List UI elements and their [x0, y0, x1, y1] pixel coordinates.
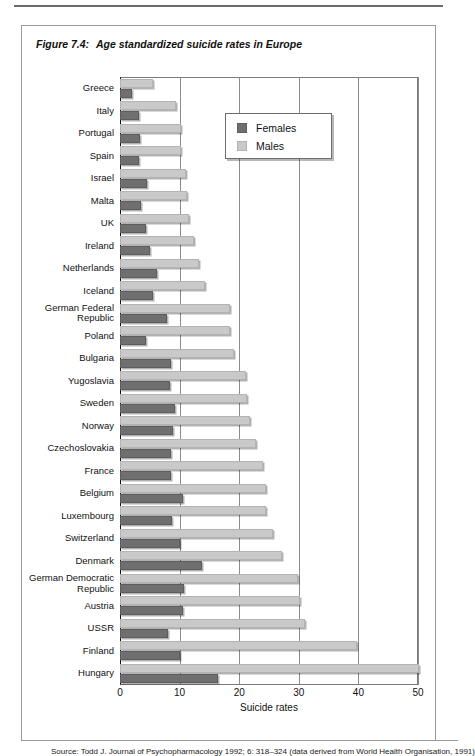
bar-females [120, 224, 146, 233]
bar-group [120, 349, 418, 372]
bar-group [120, 551, 418, 574]
y-axis-label: Iceland [18, 286, 114, 297]
bar-females [120, 561, 202, 570]
y-axis-label: Sweden [18, 398, 114, 409]
x-tick-20: 20 [234, 687, 245, 698]
bar-group [120, 394, 418, 417]
bar-females [120, 516, 172, 525]
bar-males [120, 214, 189, 223]
gridline-50 [418, 77, 419, 685]
bar-females [120, 449, 171, 458]
x-axis-ticks: 01020304050 [120, 687, 418, 701]
bar-group [120, 641, 418, 664]
legend-entry-females: Females [237, 121, 296, 135]
bar-females [120, 336, 146, 345]
bar-females [120, 134, 140, 143]
bar-males [120, 259, 199, 268]
bar-group [120, 574, 418, 597]
y-axis-label: Belgium [18, 488, 114, 499]
y-axis-label: Poland [18, 331, 114, 342]
figure-number: Figure 7.4: [36, 38, 96, 50]
bar-females [120, 584, 184, 593]
bar-group [120, 461, 418, 484]
bar-males [120, 619, 305, 628]
bar-males [120, 641, 357, 650]
bar-females [120, 606, 183, 615]
bar-group [120, 484, 418, 507]
y-axis-label: Ireland [18, 241, 114, 252]
bar-females [120, 156, 139, 165]
plot-area [120, 77, 418, 685]
y-axis-label: Switzerland [18, 533, 114, 544]
bar-males [120, 371, 246, 380]
x-tick-50: 50 [412, 687, 423, 698]
bar-females [120, 471, 171, 480]
bar-males [120, 664, 419, 673]
bar-females [120, 314, 167, 323]
bar-group [120, 169, 418, 192]
bar-rows [120, 77, 418, 685]
y-axis-label: Hungary [18, 668, 114, 679]
source-note: Source: Todd J. Journal of Psychopharmac… [51, 747, 456, 756]
y-axis-label: USSR [18, 623, 114, 634]
bar-females [120, 539, 180, 548]
y-axis-label: Yugoslavia [18, 376, 114, 387]
bar-group [120, 304, 418, 327]
bar-males [120, 551, 282, 560]
bar-males [120, 169, 186, 178]
bar-group [120, 506, 418, 529]
bar-females [120, 291, 153, 300]
source-divider [43, 740, 458, 741]
bar-group [120, 619, 418, 642]
figure-caption: Figure 7.4:Age standardized suicide rate… [36, 38, 426, 50]
bar-group [120, 439, 418, 462]
y-axis-label: Italy [18, 106, 114, 117]
y-axis-label: Finland [18, 646, 114, 657]
legend-label-males: Males [256, 140, 284, 152]
bar-group [120, 281, 418, 304]
y-axis-label: UK [18, 218, 114, 229]
y-axis-label: Denmark [18, 556, 114, 567]
bar-group [120, 79, 418, 102]
bar-males [120, 326, 230, 335]
bar-males [120, 191, 187, 200]
bar-males [120, 146, 181, 155]
legend-entry-males: Males [237, 139, 284, 153]
y-axis-label: Greece [18, 83, 114, 94]
y-axis-label: Norway [18, 421, 114, 432]
bar-males [120, 574, 298, 583]
x-tick-0: 0 [117, 687, 123, 698]
bar-males [120, 484, 266, 493]
bar-males [120, 596, 300, 605]
x-tick-10: 10 [174, 687, 185, 698]
bar-group [120, 236, 418, 259]
bar-males [120, 439, 256, 448]
legend-swatch-females-icon [237, 123, 247, 133]
y-axis-label: German DemocraticRepublic [18, 573, 114, 594]
bar-males [120, 461, 263, 470]
y-axis-label: Czechoslovakia [18, 443, 114, 454]
bar-females [120, 404, 175, 413]
legend-swatch-males-icon [237, 141, 247, 151]
bar-males [120, 79, 153, 88]
y-axis-label: Bulgaria [18, 353, 114, 364]
y-axis-label: Luxembourg [18, 511, 114, 522]
bar-females [120, 179, 147, 188]
y-axis-label: France [18, 466, 114, 477]
bar-females [120, 494, 183, 503]
bar-group [120, 191, 418, 214]
bar-males [120, 416, 250, 425]
bar-group [120, 259, 418, 282]
bar-females [120, 651, 180, 660]
y-axis-label: Netherlands [18, 263, 114, 274]
figure-box: Figure 7.4:Age standardized suicide rate… [21, 25, 436, 741]
bar-males [120, 101, 176, 110]
bar-females [120, 381, 170, 390]
chart-legend: Females Males [225, 113, 332, 159]
x-axis-title: Suicide rates [120, 702, 418, 713]
bar-males [120, 124, 181, 133]
figure-title: Age standardized suicide rates in Europe [96, 38, 302, 50]
bar-males [120, 349, 234, 358]
y-axis-label: Israel [18, 173, 114, 184]
